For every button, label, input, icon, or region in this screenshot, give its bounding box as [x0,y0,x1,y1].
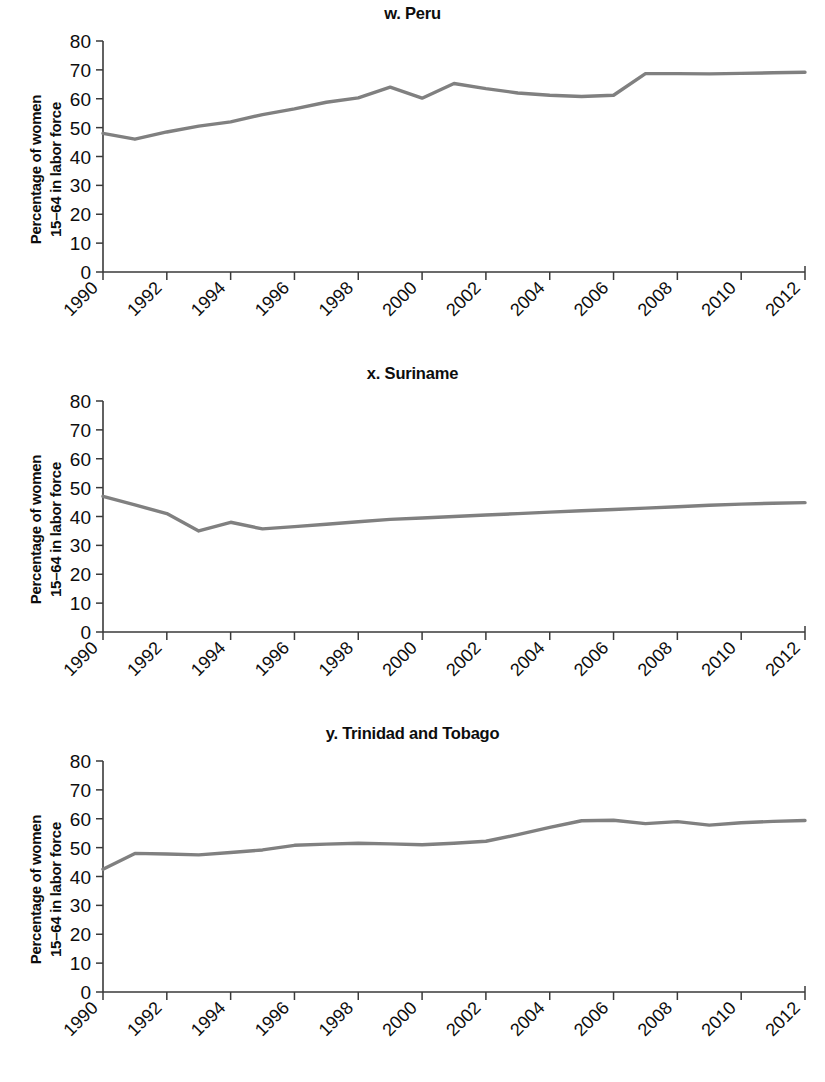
x-tick-label: 2004 [506,638,548,680]
y-tick-label: 60 [70,809,91,830]
y-tick-label: 30 [70,535,91,556]
x-tick-label: 1990 [59,638,101,680]
x-tick-label: 2006 [570,278,612,320]
plot-area: 0102030405060708019901992199419961998200… [0,0,825,360]
data-series-line [103,72,805,139]
multi-panel-line-chart-figure: w. PeruPercentage of women15–64 in labor… [0,0,825,1082]
chart-panel: y. Trinidad and TobagoPercentage of wome… [0,720,825,1082]
x-tick-label: 1996 [251,998,293,1040]
y-tick-label: 70 [70,420,91,441]
y-tick-label: 50 [70,478,91,499]
x-tick-label: 2012 [761,638,803,680]
y-tick-label: 10 [70,953,91,974]
x-tick-label: 2004 [506,998,548,1040]
y-tick-label: 80 [70,391,91,412]
x-tick-label: 2000 [378,278,420,320]
x-tick-label: 1994 [187,998,229,1040]
y-tick-label: 50 [70,118,91,139]
plot-area: 0102030405060708019901992199419961998200… [0,360,825,720]
x-tick-label: 1998 [315,998,357,1040]
x-tick-label: 1996 [251,278,293,320]
x-tick-label: 1994 [187,278,229,320]
x-tick-label: 1990 [59,278,101,320]
x-tick-label: 2004 [506,278,548,320]
y-tick-label: 20 [70,564,91,585]
y-tick-label: 20 [70,204,91,225]
y-tick-label: 80 [70,31,91,52]
data-series-line [103,820,805,869]
x-tick-label: 2002 [442,278,484,320]
x-tick-label: 1998 [315,278,357,320]
x-tick-label: 2012 [761,278,803,320]
x-tick-label: 1996 [251,638,293,680]
x-tick-label: 2000 [378,638,420,680]
x-tick-label: 2006 [570,998,612,1040]
y-tick-label: 30 [70,895,91,916]
y-tick-label: 30 [70,175,91,196]
y-tick-label: 40 [70,507,91,528]
x-tick-label: 2012 [761,998,803,1040]
chart-panel: x. SurinamePercentage of women15–64 in l… [0,360,825,720]
x-tick-label: 2010 [698,998,740,1040]
y-tick-label: 70 [70,60,91,81]
x-tick-label: 2008 [634,278,676,320]
x-tick-label: 2000 [378,998,420,1040]
x-tick-label: 1990 [59,998,101,1040]
y-tick-label: 10 [70,593,91,614]
y-tick-label: 50 [70,838,91,859]
y-tick-label: 40 [70,147,91,168]
x-tick-label: 2010 [698,278,740,320]
chart-panel: w. PeruPercentage of women15–64 in labor… [0,0,825,360]
x-tick-label: 2002 [442,998,484,1040]
y-tick-label: 60 [70,449,91,470]
x-tick-label: 1994 [187,638,229,680]
y-tick-label: 80 [70,751,91,772]
y-tick-label: 60 [70,89,91,110]
x-tick-label: 1998 [315,638,357,680]
x-tick-label: 2002 [442,638,484,680]
x-tick-label: 1992 [123,998,165,1040]
x-tick-label: 2010 [698,638,740,680]
plot-area: 0102030405060708019901992199419961998200… [0,720,825,1080]
x-tick-label: 1992 [123,638,165,680]
x-tick-label: 1992 [123,278,165,320]
y-tick-label: 10 [70,233,91,254]
y-tick-label: 20 [70,924,91,945]
x-tick-label: 2008 [634,638,676,680]
y-tick-label: 40 [70,867,91,888]
x-tick-label: 2008 [634,998,676,1040]
data-series-line [103,496,805,531]
y-tick-label: 70 [70,780,91,801]
x-tick-label: 2006 [570,638,612,680]
